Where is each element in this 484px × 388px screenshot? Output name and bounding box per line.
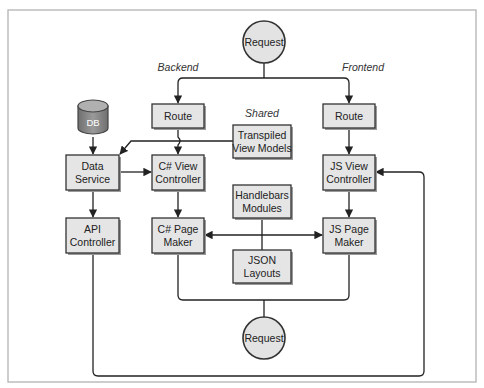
json-layouts-box: JSON Layouts — [233, 250, 293, 285]
db-cylinder-icon: DB — [78, 100, 108, 134]
svg-text:View Models: View Models — [232, 142, 291, 154]
svg-text:Service: Service — [75, 173, 110, 185]
svg-text:Controller: Controller — [70, 236, 116, 248]
svg-text:Maker: Maker — [163, 236, 193, 248]
svg-text:DB: DB — [86, 117, 99, 128]
svg-text:Handlebars: Handlebars — [235, 189, 289, 201]
frontend-route-box: Route — [323, 104, 377, 130]
frontend-label: Frontend — [342, 61, 385, 73]
cs-page-maker-box: C# Page Maker — [152, 218, 206, 255]
backend-label: Backend — [158, 61, 200, 73]
js-page-maker-box: JS Page Maker — [323, 218, 377, 255]
svg-text:C# Page: C# Page — [158, 223, 199, 235]
svg-text:Modules: Modules — [242, 202, 282, 214]
svg-text:Data: Data — [81, 160, 103, 172]
transpiled-view-models-box: Transpiled View Models — [232, 125, 293, 160]
svg-text:JS Page: JS Page — [329, 223, 369, 235]
backend-route-box: Route — [152, 104, 206, 130]
svg-text:Route: Route — [164, 110, 192, 122]
svg-text:Controller: Controller — [326, 173, 372, 185]
svg-text:API: API — [84, 223, 101, 235]
request-top-node: Request — [243, 21, 285, 63]
svg-text:Request: Request — [244, 332, 283, 344]
svg-text:Maker: Maker — [334, 236, 364, 248]
svg-text:Transpiled: Transpiled — [238, 129, 287, 141]
svg-text:Request: Request — [244, 36, 283, 48]
shared-label: Shared — [245, 107, 280, 119]
svg-text:JS View: JS View — [330, 160, 368, 172]
architecture-diagram: Backend Frontend Shared Request DB Route… — [0, 0, 484, 388]
svg-text:Route: Route — [335, 110, 363, 122]
svg-text:Controller: Controller — [155, 173, 201, 185]
svg-text:C# View: C# View — [159, 160, 198, 172]
svg-text:Layouts: Layouts — [244, 267, 281, 279]
request-bottom-node: Request — [243, 317, 285, 359]
svg-text:JSON: JSON — [248, 254, 276, 266]
data-service-box: Data Service — [66, 155, 121, 192]
handlebars-modules-box: Handlebars Modules — [233, 185, 293, 220]
js-view-controller-box: JS View Controller — [323, 155, 377, 192]
api-controller-box: API Controller — [66, 218, 121, 255]
cs-view-controller-box: C# View Controller — [152, 155, 206, 192]
